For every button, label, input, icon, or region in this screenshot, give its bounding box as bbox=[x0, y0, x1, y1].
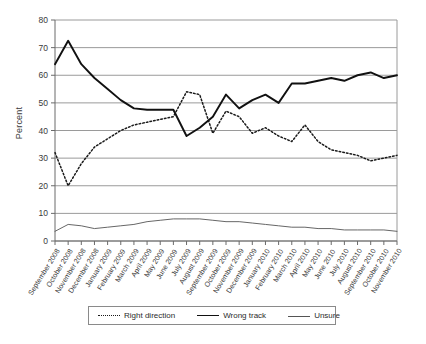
legend-label-right-direction: Right direction bbox=[124, 311, 175, 320]
legend-label-wrong-track: Wrong track bbox=[223, 311, 266, 320]
chart-legend: Right direction Wrong track Unsure bbox=[88, 306, 336, 325]
solid-thin-line-swatch-icon bbox=[288, 312, 310, 319]
y-axis-tick-label: 40 bbox=[39, 126, 49, 136]
series-line-unsure bbox=[55, 219, 397, 231]
figure-caption bbox=[2, 334, 262, 343]
chart-svg: 01020304050607080 bbox=[0, 0, 426, 344]
y-axis-tick-label: 60 bbox=[39, 70, 49, 80]
series-line-right-direction bbox=[55, 92, 397, 186]
chart-canvas: 01020304050607080 bbox=[0, 0, 426, 344]
y-axis-tick-label: 50 bbox=[39, 98, 49, 108]
legend-item-unsure[interactable]: Unsure bbox=[288, 311, 340, 320]
y-axis-tick-label: 20 bbox=[39, 181, 49, 191]
figure-root: 01020304050607080 Percent September 2008… bbox=[0, 0, 426, 344]
y-axis-tick-label: 30 bbox=[39, 153, 49, 163]
y-axis-tick-label: 70 bbox=[39, 43, 49, 53]
legend-label-unsure: Unsure bbox=[314, 311, 340, 320]
legend-item-right-direction[interactable]: Right direction bbox=[98, 311, 175, 320]
y-axis-title: Percent bbox=[14, 83, 24, 163]
y-axis-tick-label: 10 bbox=[39, 208, 49, 218]
dotted-line-swatch-icon bbox=[98, 312, 120, 319]
solid-bold-line-swatch-icon bbox=[197, 312, 219, 319]
legend-item-wrong-track[interactable]: Wrong track bbox=[197, 311, 266, 320]
y-axis-tick-label: 80 bbox=[39, 15, 49, 25]
series-line-wrong-track bbox=[55, 41, 397, 136]
y-axis-tick-label: 0 bbox=[43, 236, 48, 246]
